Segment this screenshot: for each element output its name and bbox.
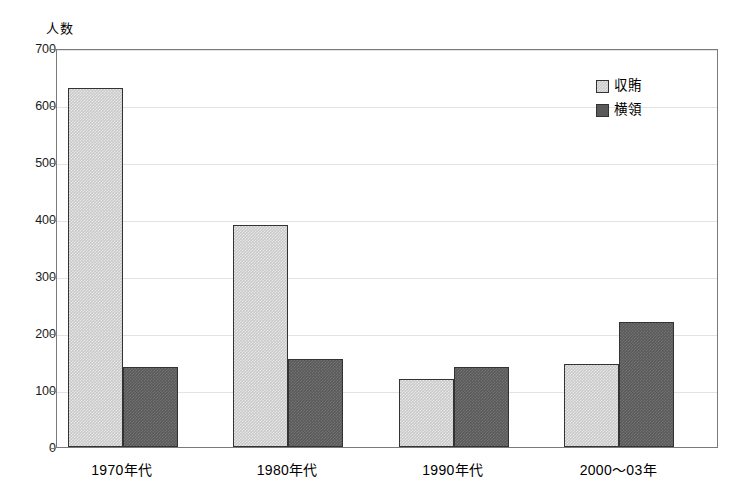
- bar-横領-1980年代: [288, 359, 343, 447]
- bar-収賄-1980年代: [233, 225, 288, 447]
- x-tick-label: 1980年代: [205, 462, 371, 478]
- y-tick-mark: [50, 448, 56, 449]
- bar-横領-1990年代: [454, 367, 509, 447]
- legend-label: 収賄: [614, 79, 641, 93]
- chart-legend: 収賄横領: [596, 74, 688, 122]
- bar-収賄-1970年代: [68, 88, 123, 447]
- x-axis-labels: 1970年代1980年代1990年代2000〜03年: [56, 452, 718, 482]
- x-tick-label: 1970年代: [39, 462, 205, 478]
- bar-収賄-1990年代: [399, 379, 454, 447]
- bar-収賄-2000〜03年: [564, 364, 619, 447]
- bar-横領-1970年代: [123, 367, 178, 447]
- legend-swatch-icon: [596, 104, 609, 117]
- legend-swatch-icon: [596, 80, 609, 93]
- bar-横領-2000〜03年: [619, 322, 674, 447]
- legend-entry[interactable]: 横領: [596, 98, 688, 122]
- bar-chart: 人数 0100200300400500600700 1970年代1980年代19…: [0, 0, 735, 496]
- y-axis-title: 人数: [46, 22, 73, 36]
- x-tick-label: 1990年代: [370, 462, 536, 478]
- y-axis-ticks: 0100200300400500600700: [0, 49, 56, 448]
- legend-label: 横領: [614, 103, 641, 117]
- legend-entry[interactable]: 収賄: [596, 74, 688, 98]
- x-tick-label: 2000〜03年: [536, 462, 702, 478]
